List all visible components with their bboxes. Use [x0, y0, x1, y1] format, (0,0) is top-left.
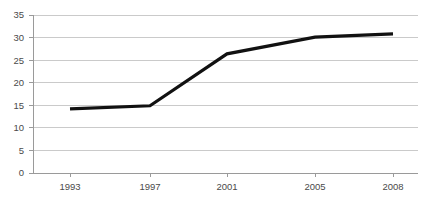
- chart-canvas: 05101520253035 19931997200120052008: [0, 0, 424, 204]
- y-tick-label: 10: [13, 122, 24, 133]
- y-tick-label: 25: [13, 55, 24, 66]
- x-tick-label: 2008: [382, 181, 403, 192]
- y-tick-label: 30: [13, 32, 24, 43]
- y-tick-label: 5: [19, 145, 24, 156]
- y-tick-label: 35: [13, 9, 24, 20]
- x-tick-label: 2001: [216, 181, 237, 192]
- y-tick-label: 15: [13, 100, 24, 111]
- line-chart: 05101520253035 19931997200120052008: [0, 0, 424, 204]
- y-tick-label: 20: [13, 77, 24, 88]
- x-tick-label: 1997: [139, 181, 160, 192]
- y-tick-label: 0: [19, 167, 24, 178]
- x-tick-label: 1993: [59, 181, 80, 192]
- x-tick-label: 2005: [304, 181, 325, 192]
